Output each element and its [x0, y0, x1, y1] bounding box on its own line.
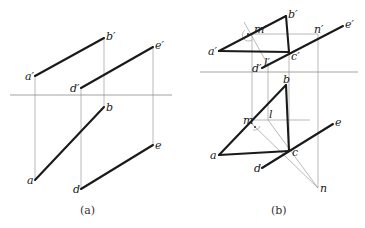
label-d-prime: d′ [252, 62, 262, 75]
line-ac-top [219, 151, 289, 155]
label-e-prime: e′ [345, 18, 355, 31]
label-a: a [210, 149, 217, 162]
label-l-prime: l′ [264, 56, 271, 69]
panel-b: b′ m′ n′ e′ a′ c′ d′ l′ b m l a c e d n … [200, 8, 358, 217]
label-e: e [335, 116, 342, 129]
caption-b: (b) [271, 204, 287, 217]
label-b-prime: b′ [288, 8, 298, 21]
label-a: a [27, 174, 34, 187]
line-ab-top [35, 107, 104, 180]
label-b-prime: b′ [106, 30, 116, 43]
line-de-top [81, 145, 153, 189]
line-de-front [81, 47, 153, 88]
line-bc-front [286, 16, 289, 52]
label-d: d [73, 183, 80, 196]
label-b: b [106, 101, 113, 114]
label-e-prime: e′ [155, 39, 165, 52]
label-d-prime: d′ [70, 82, 80, 95]
line-ac-front [219, 51, 289, 52]
label-m: m [243, 114, 253, 127]
label-n-prime: n′ [314, 23, 324, 36]
panel-a: a′ b′ d′ e′ b a d e (a) [10, 30, 172, 217]
projection-diagram: a′ b′ d′ e′ b a d e (a) [0, 0, 365, 228]
line-ab-front [219, 16, 286, 51]
line-ab-front [35, 38, 104, 76]
label-b: b [283, 73, 290, 86]
label-m-prime: m′ [254, 23, 267, 36]
aux-m-n-top [252, 124, 318, 188]
right-angle-dot [254, 126, 256, 128]
label-d: d [254, 162, 261, 175]
line-bc-top [286, 85, 289, 151]
label-l: l [269, 108, 273, 121]
label-n: n [320, 182, 327, 195]
label-a-prime: a′ [25, 70, 35, 83]
caption-a: (a) [80, 204, 95, 217]
label-c-prime: c′ [291, 50, 300, 63]
label-e: e [155, 139, 162, 152]
label-c: c [292, 146, 298, 159]
label-a-prime: a′ [208, 45, 218, 58]
line-de-front [262, 26, 343, 68]
